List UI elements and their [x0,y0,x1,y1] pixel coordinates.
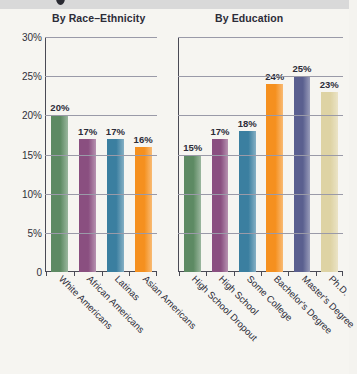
category-label: Ph.D. [327,273,352,298]
bar-value-label: 20% [50,102,69,113]
chart-panel-education: 15%17%18%24%25%23% [178,37,343,272]
bar: 18% [239,131,256,272]
bar-value-label: 17% [78,126,97,137]
y-axis-tick-10pct: 10% [12,188,42,199]
category-labels-race-ethnicity: White AmericansAfrican AmericansLatinasA… [45,276,157,374]
bar-value-label: 15% [183,142,202,153]
gridline-20 [178,115,343,116]
gridline-5 [178,233,343,234]
bar-value-label: 23% [320,79,339,90]
bar-value-label: 16% [134,134,153,145]
y-axis-tick-5pct: 5% [12,227,42,238]
y-axis-tick-labels: 05%10%15%20%25%30% [0,0,42,374]
gridline-15 [45,155,157,156]
bar-value-label: 18% [238,118,257,129]
y-axis-tick-15pct: 15% [12,149,42,160]
bar: 17% [107,139,124,272]
bar: 17% [212,139,229,272]
y-axis-tick-30pct: 30% [12,32,42,43]
bar: 25% [294,76,311,272]
gridline-25 [178,76,343,77]
gridline-5 [45,233,157,234]
gridline-10 [45,194,157,195]
panel-title-race-ethnicity: By Race–Ethnicity [52,12,145,24]
gridline-15 [178,155,343,156]
chart-panel-race-ethnicity: 20%17%17%16% [45,37,157,272]
gridline-20 [45,115,157,116]
bar: 16% [135,147,152,272]
gridline-30 [45,37,157,38]
bar-value-label: 17% [210,126,229,137]
panel-title-education: By Education [215,12,283,24]
bar-value-label: 25% [292,63,311,74]
gridline-25 [45,76,157,77]
bar-value-label: 17% [106,126,125,137]
y-axis-tick-25pct: 25% [12,71,42,82]
y-axis-tick-20pct: 20% [12,110,42,121]
category-labels-education: High School DropoutHigh SchoolSome Colle… [178,276,343,374]
page-top-band [0,0,349,9]
gridline-10 [178,194,343,195]
bar: 23% [321,92,338,272]
bar: 24% [266,84,283,272]
bar: 17% [79,139,96,272]
bar: 15% [184,155,201,273]
gridline-30 [178,37,343,38]
y-axis-tick-0: 0 [12,267,42,278]
